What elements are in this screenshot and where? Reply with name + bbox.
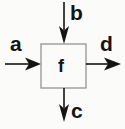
arrow-output-d [86,58,121,71]
arrow-output-c [59,88,69,122]
block-diagram: a b d c f [0,0,125,129]
arrow-input-a [5,58,41,71]
port-label-c: c [71,100,83,121]
port-label-b: b [70,2,83,23]
function-block-label: f [58,57,64,75]
port-label-d: d [100,33,113,54]
port-label-a: a [10,33,22,54]
arrow-input-b [59,2,69,44]
